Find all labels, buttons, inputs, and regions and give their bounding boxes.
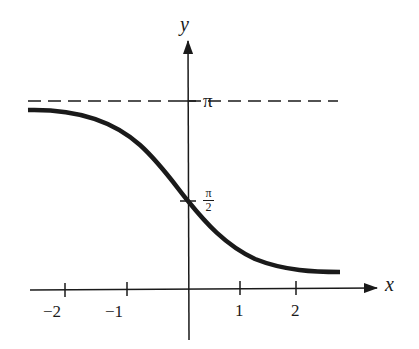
x-axis [30,288,377,290]
half-pi-label: π 2 [203,188,214,213]
half-pi-numerator: π [205,186,211,200]
arccot-plot [0,0,419,349]
x-tick-label-minus-2: −2 [43,302,61,322]
y-axis-label: y [180,13,189,36]
x-tick-label-minus-1: −1 [105,302,123,322]
x-axis-label: x [385,273,394,296]
x-tick-label-2: 2 [291,301,300,321]
arccot-curve [28,110,340,272]
half-pi-denominator: 2 [206,200,212,214]
pi-label: π [203,90,213,112]
y-axis [188,41,189,340]
x-tick-label-1: 1 [235,301,244,321]
